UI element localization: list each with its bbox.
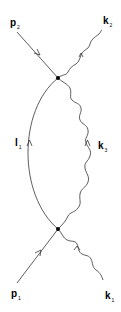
label-l1: l1 (15, 137, 22, 150)
photon-line-k2 (58, 30, 102, 78)
fermion-line-p1 (17, 229, 58, 283)
label-k1: k1 (105, 290, 115, 303)
arrow-icon (27, 140, 32, 146)
arrow-icon (74, 246, 80, 250)
fermion-line-p2 (17, 32, 58, 78)
fermion-propagator-l1 (27, 78, 58, 229)
vertex-bottom (56, 227, 60, 231)
label-k2: k2 (103, 15, 113, 28)
label-p2: p2 (10, 17, 20, 30)
feynman-diagram: p2 k2 l1 k3 p1 k1 (0, 0, 121, 312)
photon-propagator-k3 (58, 78, 91, 229)
label-k3: k3 (98, 140, 108, 153)
vertex-top (56, 76, 60, 80)
label-p1: p1 (11, 288, 21, 301)
photon-line-k1 (58, 229, 103, 280)
